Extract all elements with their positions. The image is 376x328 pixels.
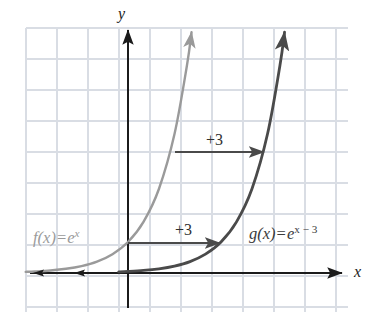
- shift-annotation-upper: +3: [206, 132, 223, 148]
- g-exponent: x − 3: [294, 223, 317, 235]
- plot-layer: [0, 0, 376, 328]
- exponential-shift-figure: y x f(x)=ex g(x)=ex − 3 +3 +3: [0, 0, 376, 328]
- f-equals: =: [56, 228, 67, 247]
- f-arg: (x): [38, 228, 56, 247]
- shift-annotation-lower: +3: [175, 222, 192, 238]
- f-exponent: x: [75, 227, 80, 239]
- x-axis-label: x: [354, 264, 361, 280]
- f-base: e: [67, 228, 74, 247]
- g-equals: =: [276, 224, 287, 243]
- function-label-f: f(x)=ex: [33, 230, 80, 247]
- g-arg: (x): [257, 224, 275, 243]
- function-label-g: g(x)=ex − 3: [249, 226, 317, 243]
- y-axis-label: y: [118, 6, 125, 22]
- g-name: g: [249, 224, 257, 243]
